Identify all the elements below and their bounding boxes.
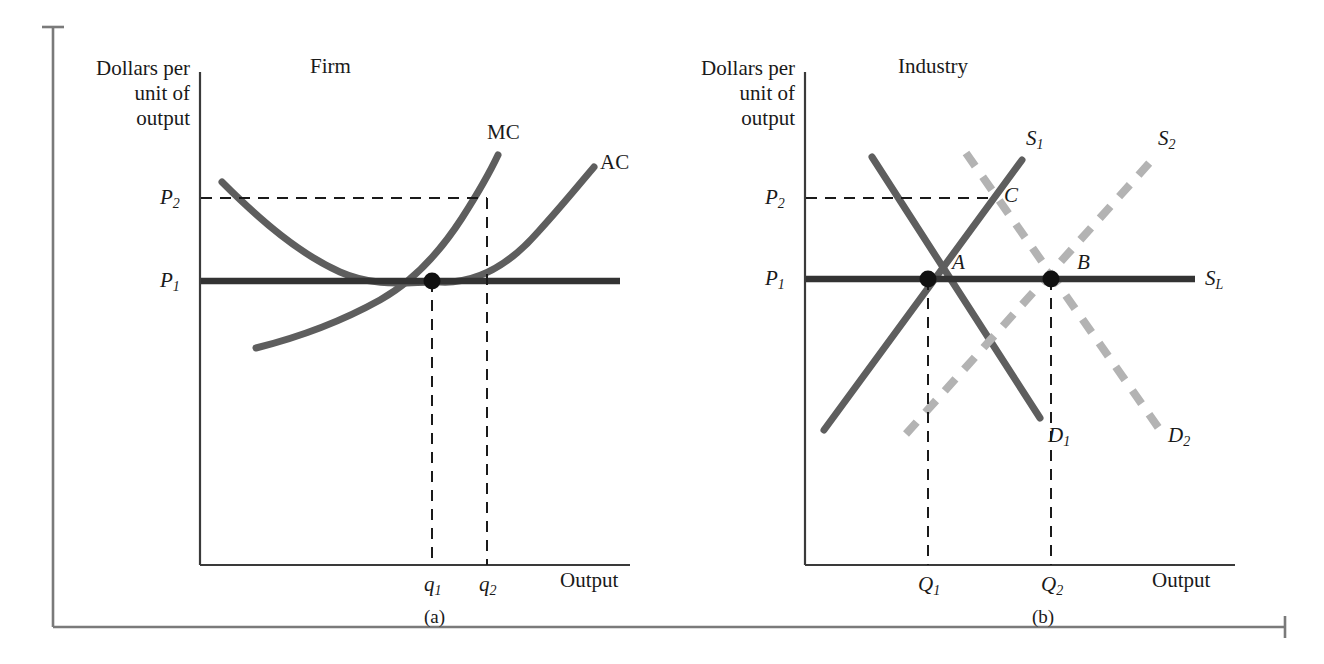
panel-a-ytick-p2: P2 <box>160 187 180 211</box>
curve-label-sl-letter: S <box>1205 266 1216 290</box>
panel-a-axes <box>200 72 630 565</box>
panel-b-y-axis-line-2: unit of <box>683 81 795 106</box>
figure-canvas: Dollars per unit of output Firm P2 P1 MC… <box>0 0 1324 664</box>
panel-b-y-axis-line-1: Dollars per <box>683 56 795 81</box>
panel-a-xtick-q1-sub: 1 <box>435 583 442 598</box>
point-firm-equilibrium <box>424 273 441 290</box>
panel-a-title: Firm <box>310 56 351 77</box>
panel-a-ytick-p1-letter: P <box>160 268 173 292</box>
panel-a-ytick-p1: P1 <box>160 270 180 294</box>
panel-a-xtick-q1-letter: q <box>424 572 435 596</box>
curve-label-ac: AC <box>600 152 629 173</box>
panel-b-y-axis-label: Dollars per unit of output <box>683 56 795 130</box>
curve-s2 <box>906 160 1152 434</box>
panel-a-y-axis-line-3: output <box>78 106 190 131</box>
point-b-dot <box>1043 271 1060 288</box>
panel-b-x-axis-label: Output <box>1152 570 1210 591</box>
figure-vector-layer <box>0 0 1324 664</box>
panel-b-ytick-p1-sub: 1 <box>778 277 785 292</box>
panel-b-xtick-q2-sub: 2 <box>1056 583 1063 598</box>
panel-a-y-axis-label: Dollars per unit of output <box>78 56 190 130</box>
panel-b-xtick-q1: Q1 <box>918 574 940 598</box>
panel-a-ytick-p2-sub: 2 <box>173 196 180 211</box>
curve-label-d2-sub: 2 <box>1183 434 1190 449</box>
curve-label-d1-sub: 1 <box>1063 434 1070 449</box>
panel-a-xtick-q2-letter: q <box>479 572 490 596</box>
curve-label-d2: D2 <box>1168 425 1190 449</box>
curve-label-s2-letter: S <box>1158 126 1169 150</box>
panel-a-xtick-q2: q2 <box>479 574 497 598</box>
panel-b-title: Industry <box>898 56 968 77</box>
panel-b-ytick-p2: P2 <box>765 187 785 211</box>
panel-a-ytick-p1-sub: 1 <box>173 279 180 294</box>
point-a-dot <box>920 271 937 288</box>
point-label-b: B <box>1077 252 1090 273</box>
curve-label-s2-sub: 2 <box>1169 137 1176 152</box>
curve-label-mc: MC <box>487 122 520 143</box>
curve-label-s1-letter: S <box>1026 126 1037 150</box>
panel-b-ytick-p1: P1 <box>765 268 785 292</box>
panel-b-xtick-q2-letter: Q <box>1041 572 1056 596</box>
curve-s1 <box>824 160 1022 430</box>
panel-b-xtick-q1-sub: 1 <box>933 583 940 598</box>
curve-label-d1: D1 <box>1048 425 1070 449</box>
point-label-a: A <box>952 252 965 273</box>
panel-a-xtick-q2-sub: 2 <box>490 583 497 598</box>
curve-label-s1: S1 <box>1026 128 1044 152</box>
curve-label-d1-letter: D <box>1048 423 1063 447</box>
panel-b-caption: (b) <box>1032 607 1054 626</box>
point-label-c: C <box>1004 185 1018 206</box>
curve-label-s1-sub: 1 <box>1037 137 1044 152</box>
curve-label-sl-sub: L <box>1216 277 1224 292</box>
curve-label-d2-letter: D <box>1168 423 1183 447</box>
panel-a-ytick-p2-letter: P <box>160 185 173 209</box>
panel-b-ytick-p2-sub: 2 <box>778 196 785 211</box>
curve-ac-visible <box>222 167 594 283</box>
panel-a-x-axis-label: Output <box>560 570 618 591</box>
panel-b-xtick-q1-letter: Q <box>918 572 933 596</box>
panel-a-caption: (a) <box>424 607 445 626</box>
panel-b-ytick-p2-letter: P <box>765 185 778 209</box>
panel-a-xtick-q1: q1 <box>424 574 442 598</box>
panel-b-y-axis-line-3: output <box>683 106 795 131</box>
page-frame <box>42 27 1285 638</box>
panel-b-xtick-q2: Q2 <box>1041 574 1063 598</box>
panel-b-ytick-p1-letter: P <box>765 266 778 290</box>
curve-mc <box>256 155 498 348</box>
panel-a-y-axis-line-2: unit of <box>78 81 190 106</box>
panel-a-y-axis-line-1: Dollars per <box>78 56 190 81</box>
curve-label-s2: S2 <box>1158 128 1176 152</box>
curve-label-sl: SL <box>1205 268 1223 292</box>
